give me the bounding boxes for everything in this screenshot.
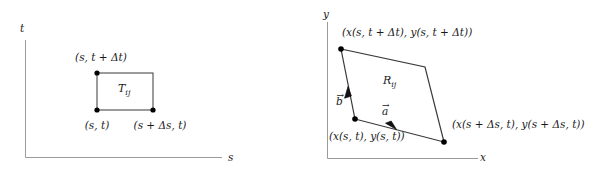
right-region-label-Rij: Rij <box>383 75 396 86</box>
vertex-dot-image-top-left <box>338 46 344 52</box>
left-axis-label-t: t <box>20 23 24 34</box>
vector-a-arrow-accent: → <box>382 101 390 110</box>
right-axis-label-x: x <box>480 152 486 163</box>
right-vertex-label-top: (x(s, t + Δt), y(s, t + Δt)) <box>342 27 472 38</box>
vector-b-arrowhead <box>345 87 352 99</box>
vector-b-arrow-accent: → <box>337 91 345 100</box>
right-vertex-label-bottom-right: (x(s + Δs, t), y(s + Δs, t)) <box>452 119 585 130</box>
left-axis-label-s: s <box>228 152 233 163</box>
vertex-dot-image-bottom-right <box>441 139 447 145</box>
vertex-dot-bottom-left <box>94 107 99 112</box>
vector-a-label: →a <box>382 106 388 117</box>
right-axis-label-y: y <box>323 9 329 20</box>
figure-canvas <box>0 0 604 171</box>
left-vertex-label-bottom-right: (s + Δs, t) <box>134 120 187 131</box>
left-vertex-label-top-left: (s, t + Δt) <box>75 52 127 63</box>
region-label-ij-sub-right: ij <box>391 80 396 89</box>
region-outline-Rij <box>341 49 444 142</box>
vertex-dot-top-left <box>94 70 99 75</box>
vertex-dot-bottom-right <box>150 107 155 112</box>
vector-b-label: →b <box>336 96 343 107</box>
left-region-label-Tij: Tij <box>118 83 130 94</box>
right-vertex-label-bottom-left: (x(s, t), y(s, t)) <box>329 131 405 142</box>
region-label-ij-sub: ij <box>125 88 130 97</box>
image-region-Rij <box>341 49 444 142</box>
left-vertex-label-bottom-left: (s, t) <box>85 120 109 131</box>
figure-root: t s (s, t + Δt) (s, t) (s + Δs, t) Tij y… <box>0 0 604 171</box>
vertex-dot-image-bottom-left <box>352 116 358 122</box>
